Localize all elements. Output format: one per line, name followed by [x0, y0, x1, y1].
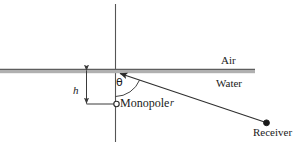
water-region-label: Water [216, 78, 242, 89]
monopole-label: Monopole [120, 97, 169, 109]
monopole-marker [114, 101, 119, 106]
receiver-marker [264, 120, 270, 126]
receiver-label: Receiver [253, 127, 292, 138]
range-variable-label: r [170, 98, 174, 108]
angle-theta-label: θ [116, 77, 123, 88]
air-region-label: Air [221, 55, 236, 66]
height-variable-label: h [73, 85, 79, 96]
diagram-canvas [0, 0, 302, 146]
physics-diagram-figure: Air Water Monopole Receiver h r θ [0, 0, 302, 146]
